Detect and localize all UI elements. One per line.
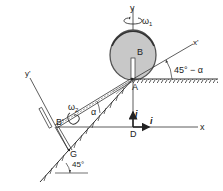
y-prime-axis [30, 78, 72, 151]
label-y-prime: y' [25, 69, 31, 78]
label-x: x [200, 122, 205, 132]
label-y: y [130, 3, 135, 13]
angle-arc-top [166, 60, 173, 79]
label-i: i [150, 116, 153, 126]
label-a: A [132, 82, 138, 92]
label-omega1: ω1 [142, 16, 153, 27]
label-d: D [130, 129, 137, 139]
label-omega2: ω2 [68, 102, 79, 113]
label-x-prime: x' [193, 38, 199, 47]
incline-surface [40, 80, 132, 182]
rod-ab-prime [55, 78, 133, 128]
label-b-prime: B' [56, 117, 64, 127]
label-b: B [137, 47, 143, 57]
label-alpha: α [91, 107, 96, 117]
label-angle-top: 45° − α [174, 65, 203, 75]
label-angle-bottom: 45° [72, 160, 84, 169]
mechanics-diagram: y ω1 B x' 45° − α A y' ω2 B' α j i x D G… [0, 0, 223, 191]
label-g: G [70, 149, 77, 159]
label-j: j [134, 109, 138, 119]
point-a [131, 78, 133, 80]
disk-b [110, 30, 156, 80]
ground-surface [133, 79, 218, 83]
